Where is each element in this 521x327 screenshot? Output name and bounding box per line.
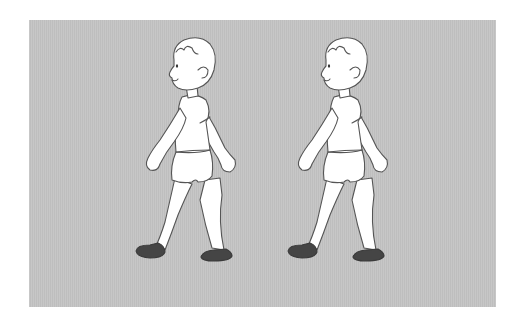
- boy-figure-right: [288, 38, 387, 261]
- illustration-canvas: [0, 0, 521, 327]
- boy-figure-left: [136, 38, 235, 261]
